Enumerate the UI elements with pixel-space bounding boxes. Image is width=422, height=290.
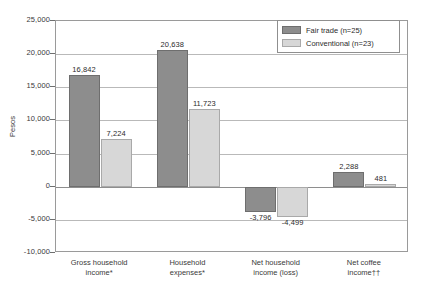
gridline — [56, 120, 407, 121]
zero-line — [56, 187, 407, 188]
y-tick-label: 5,000 — [4, 148, 50, 157]
bar-value-label: 481 — [355, 174, 407, 183]
bar-value-label: -4,499 — [267, 218, 319, 227]
legend-label: Fair trade (n=25) — [306, 26, 362, 35]
legend-label: Conventional (n=23) — [306, 39, 374, 48]
gridline — [56, 54, 407, 55]
bar — [189, 109, 220, 187]
bar — [101, 139, 132, 187]
bar — [157, 50, 188, 187]
bar-value-label: 7,224 — [90, 129, 142, 138]
bar — [365, 184, 396, 187]
gridline — [56, 220, 407, 221]
gridline — [56, 87, 407, 88]
bar-value-label: 11,723 — [178, 99, 230, 108]
legend-swatch — [282, 39, 301, 47]
y-tick-label: 25,000 — [4, 15, 50, 24]
x-category-label: Gross household income* — [52, 258, 146, 278]
y-tick-label: 15,000 — [4, 81, 50, 90]
chart-legend: Fair trade (n=25)Conventional (n=23) — [277, 20, 400, 53]
x-category-label: Net coffee income†† — [317, 258, 411, 278]
x-category-label: Net household income (loss) — [229, 258, 323, 278]
y-tick-label: -10,000 — [4, 247, 50, 256]
y-tick-label: 10,000 — [4, 114, 50, 123]
y-tick-label: 20,000 — [4, 48, 50, 57]
x-category-label: Household expenses* — [140, 258, 234, 278]
bar — [277, 187, 308, 217]
bar-value-label: 20,638 — [146, 40, 198, 49]
bar — [245, 187, 276, 212]
y-tick-mark — [50, 252, 55, 253]
plot-area: 16,84220,638-3,7962,2887,22411,723-4,499… — [55, 20, 408, 252]
y-tick-label: 0 — [4, 181, 50, 190]
bar-chart: Pesos 25,00020,00015,00010,0005,0000-5,0… — [0, 0, 422, 290]
legend-item: Fair trade (n=25) — [282, 24, 395, 36]
legend-item: Conventional (n=23) — [282, 37, 395, 49]
legend-swatch — [282, 26, 301, 34]
y-tick-label: -5,000 — [4, 214, 50, 223]
bar-value-label: 2,288 — [323, 162, 375, 171]
bar-value-label: 16,842 — [58, 65, 110, 74]
